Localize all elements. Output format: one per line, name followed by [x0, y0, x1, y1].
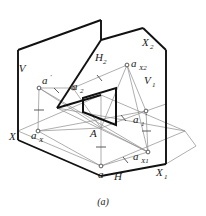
label-point-aX2-sub: X2 — [138, 64, 147, 72]
label-point-a2-base: a — [72, 80, 78, 92]
label-point-a2-sub: 2 — [80, 87, 84, 95]
construction-lines — [18, 50, 196, 166]
label-axis-X1-base: X — [155, 166, 164, 178]
line-A-to-a-prime — [39, 88, 101, 128]
label-axis-X1: X 1 — [155, 166, 168, 181]
label-point-a1-prime-sub: 1 — [141, 120, 145, 128]
label-plane-V1-sub: 1 — [152, 81, 156, 89]
label-point-aX-base: a — [31, 129, 37, 141]
label-point-a-prime: a ' — [42, 73, 52, 86]
v1-plane-guide — [146, 104, 166, 111]
label-point-a1-prime-base: a — [133, 113, 139, 125]
label-plane-H2: H 2 — [94, 51, 107, 66]
label-plane-V: V — [19, 62, 27, 74]
label-axis-X1-sub: 1 — [164, 173, 168, 181]
label-plane-V1-base: V — [144, 74, 152, 86]
label-point-a-prime-base: a — [42, 74, 48, 86]
marker-aX — [36, 129, 40, 133]
label-point-a2: a 2 — [72, 80, 84, 95]
label-axis-X2-base: X — [141, 36, 150, 48]
h2-plane-top-edge — [101, 28, 143, 40]
marker-aX2 — [125, 63, 129, 67]
marker-a-prime — [37, 86, 41, 90]
figure-caption: (a) — [97, 196, 109, 208]
tick-a2-left-segment — [54, 88, 59, 93]
v-plane-top-edge — [18, 20, 101, 50]
x-axis-heavy-left — [18, 140, 101, 176]
label-point-A: A — [89, 127, 97, 139]
label-point-a: a — [98, 168, 104, 180]
label-plane-H: H — [113, 170, 123, 182]
label-point-aX-sub: X — [38, 136, 44, 144]
label-axis-X2-sub: 2 — [150, 43, 154, 51]
label-point-a-prime-mark: ' — [50, 73, 52, 81]
v1-plane-edge-diag — [185, 131, 196, 146]
label-axis-X2: X 2 — [141, 36, 154, 51]
v1-plane-edge-bottom — [166, 146, 196, 164]
label-plane-V1: V 1 — [144, 74, 156, 89]
figure-canvas: V H H 2 V 1 X X 1 X 2 A a a ' a 1 ' — [0, 0, 206, 216]
line-aX-to-a-prime — [38, 88, 39, 131]
marker-aX1 — [146, 150, 150, 154]
label-point-aX2: a X2 — [131, 57, 147, 72]
label-axis-X: X — [8, 130, 17, 142]
label-point-aX1-sub: X1 — [140, 157, 149, 165]
label-point-aX1-base: a — [133, 150, 139, 162]
line-A-to-a1-prime — [101, 111, 146, 128]
label-plane-H2-sub: 2 — [103, 58, 107, 66]
descriptive-geometry-figure: V H H 2 V 1 X X 1 X 2 A a a ' a 1 ' — [0, 0, 206, 216]
label-point-aX2-base: a — [131, 57, 137, 69]
